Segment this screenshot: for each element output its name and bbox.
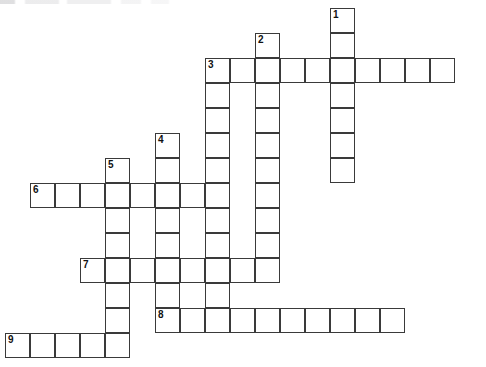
cell-number: 1	[333, 9, 339, 21]
crossword-cell[interactable]	[330, 83, 355, 108]
cell-letter	[331, 34, 354, 57]
crossword-cell[interactable]	[205, 308, 230, 333]
cell-letter	[106, 259, 129, 282]
crossword-cell[interactable]	[155, 258, 180, 283]
crossword-cell[interactable]	[330, 33, 355, 58]
crossword-cell[interactable]	[255, 258, 280, 283]
crossword-cell[interactable]	[405, 58, 430, 83]
cell-letter	[106, 284, 129, 307]
crossword-cell[interactable]	[305, 308, 330, 333]
crossword-cell[interactable]	[205, 158, 230, 183]
crossword-cell[interactable]	[355, 308, 380, 333]
cell-letter	[81, 184, 104, 207]
cell-letter	[331, 309, 354, 332]
crossword-cell[interactable]	[230, 58, 255, 83]
crossword-cell[interactable]	[255, 158, 280, 183]
crossword-cell[interactable]: 4	[155, 133, 180, 158]
crossword-cell[interactable]	[105, 208, 130, 233]
crossword-cell[interactable]	[380, 308, 405, 333]
crossword-cell[interactable]	[105, 233, 130, 258]
cell-letter	[181, 309, 204, 332]
crossword-cell[interactable]	[205, 208, 230, 233]
crossword-cell[interactable]	[205, 283, 230, 308]
crossword-cell[interactable]	[205, 108, 230, 133]
crossword-cell[interactable]: 3	[205, 58, 230, 83]
crossword-cell[interactable]	[155, 233, 180, 258]
crossword-cell[interactable]	[105, 258, 130, 283]
cell-letter	[256, 259, 279, 282]
crossword-cell[interactable]	[105, 308, 130, 333]
cell-number: 6	[33, 184, 39, 196]
cell-letter	[156, 259, 179, 282]
crossword-cell[interactable]	[30, 333, 55, 358]
crossword-cell[interactable]	[130, 258, 155, 283]
crossword-cell[interactable]	[80, 333, 105, 358]
crossword-cell[interactable]	[205, 183, 230, 208]
crossword-cell[interactable]	[330, 308, 355, 333]
cell-letter	[256, 159, 279, 182]
crossword-cell[interactable]	[330, 108, 355, 133]
crossword-cell[interactable]	[330, 133, 355, 158]
cell-letter	[31, 334, 54, 357]
crossword-cell[interactable]	[205, 83, 230, 108]
cell-number: 5	[108, 159, 114, 171]
crossword-cell[interactable]	[330, 58, 355, 83]
crossword-cell[interactable]: 6	[30, 183, 55, 208]
crossword-cell[interactable]	[155, 183, 180, 208]
cell-letter	[406, 59, 429, 82]
crossword-cell[interactable]	[230, 308, 255, 333]
crossword-cell[interactable]: 1	[330, 8, 355, 33]
cell-letter	[131, 259, 154, 282]
crossword-cell[interactable]	[205, 233, 230, 258]
crossword-cell[interactable]	[230, 258, 255, 283]
crossword-cell[interactable]: 8	[155, 308, 180, 333]
crossword-cell[interactable]	[255, 108, 280, 133]
crossword-cell[interactable]	[105, 183, 130, 208]
crossword-cell[interactable]	[255, 308, 280, 333]
cell-letter	[356, 59, 379, 82]
crossword-cell[interactable]	[155, 208, 180, 233]
crossword-cell[interactable]	[155, 158, 180, 183]
crossword-cell[interactable]	[280, 58, 305, 83]
crossword-puzzle: 123456789	[0, 0, 486, 367]
crossword-cell[interactable]	[255, 58, 280, 83]
crossword-cell[interactable]	[105, 283, 130, 308]
crossword-cell[interactable]: 5	[105, 158, 130, 183]
crossword-cell[interactable]	[180, 258, 205, 283]
cell-letter	[56, 184, 79, 207]
crossword-cell[interactable]	[255, 183, 280, 208]
crossword-cell[interactable]	[355, 58, 380, 83]
crossword-cell[interactable]	[130, 183, 155, 208]
scan-artifact	[0, 0, 486, 4]
crossword-cell[interactable]	[255, 208, 280, 233]
cell-letter	[256, 234, 279, 257]
crossword-cell[interactable]	[55, 333, 80, 358]
crossword-cell[interactable]: 7	[80, 258, 105, 283]
crossword-cell[interactable]	[80, 183, 105, 208]
crossword-cell[interactable]: 2	[255, 33, 280, 58]
crossword-cell[interactable]	[330, 158, 355, 183]
crossword-cell[interactable]	[430, 58, 455, 83]
cell-letter	[306, 309, 329, 332]
crossword-cell[interactable]	[205, 133, 230, 158]
crossword-cell[interactable]	[55, 183, 80, 208]
crossword-cell[interactable]	[155, 283, 180, 308]
cell-letter	[231, 309, 254, 332]
cell-letter	[181, 259, 204, 282]
crossword-cell[interactable]	[255, 233, 280, 258]
cell-letter	[206, 209, 229, 232]
cell-letter	[256, 84, 279, 107]
crossword-cell[interactable]	[255, 83, 280, 108]
crossword-cell[interactable]	[205, 258, 230, 283]
crossword-cell[interactable]	[105, 333, 130, 358]
cell-number: 4	[158, 134, 164, 146]
crossword-cell[interactable]	[280, 308, 305, 333]
crossword-cell[interactable]	[255, 133, 280, 158]
crossword-cell[interactable]	[305, 58, 330, 83]
cell-letter	[256, 109, 279, 132]
crossword-cell[interactable]	[380, 58, 405, 83]
crossword-cell[interactable]: 9	[5, 333, 30, 358]
crossword-cell[interactable]	[180, 308, 205, 333]
cell-letter	[281, 309, 304, 332]
crossword-cell[interactable]	[180, 183, 205, 208]
